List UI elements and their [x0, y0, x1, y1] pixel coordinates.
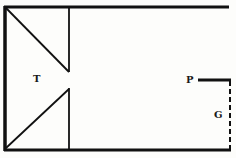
label-p: P — [186, 74, 194, 85]
diagram-canvas: T P G — [0, 0, 236, 158]
label-t: T — [33, 73, 41, 84]
label-g: G — [214, 109, 223, 120]
